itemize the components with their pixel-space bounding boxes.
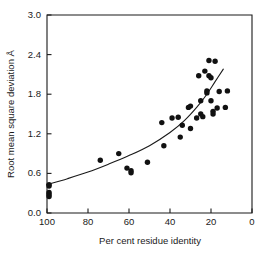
- x-axis-title: Per cent residue identity: [99, 236, 201, 246]
- x-axis-tick-marks: [47, 209, 252, 214]
- data-point: [116, 151, 121, 156]
- x-tick-label: 80: [83, 217, 94, 227]
- data-point: [178, 134, 183, 139]
- y-axis-title: Root mean square deviation Å: [6, 50, 16, 178]
- data-point: [200, 114, 205, 119]
- axis-frame-lines: [47, 15, 252, 213]
- x-tick-label: 40: [165, 217, 176, 227]
- data-point: [206, 58, 211, 63]
- fitted-trend-curve: [47, 69, 223, 184]
- data-point: [208, 98, 213, 103]
- data-point: [202, 68, 207, 73]
- data-point: [98, 158, 103, 163]
- data-point: [188, 126, 193, 131]
- data-point: [188, 103, 193, 108]
- data-point: [46, 183, 51, 188]
- data-point: [128, 170, 133, 175]
- data-point: [204, 90, 209, 95]
- data-point: [225, 88, 230, 93]
- axes-frame: [47, 15, 252, 213]
- data-point: [161, 143, 166, 148]
- data-point: [212, 59, 217, 64]
- data-point: [176, 115, 181, 120]
- data-point: [194, 115, 199, 120]
- data-point: [196, 73, 201, 78]
- figure-container: 100806040200 0.00.61.21.82.43.0 Per cent…: [0, 0, 269, 253]
- data-point: [223, 105, 228, 110]
- data-point: [210, 111, 215, 116]
- data-point: [169, 115, 174, 120]
- data-point: [198, 98, 203, 103]
- data-point: [217, 89, 222, 94]
- data-point: [214, 105, 219, 110]
- data-point: [159, 120, 164, 125]
- x-tick-label: 60: [124, 217, 135, 227]
- y-tick-label: 0.0: [0, 208, 41, 218]
- scatter-data-points: [46, 58, 230, 199]
- y-tick-label: 3.0: [0, 10, 41, 20]
- data-point: [46, 194, 51, 199]
- x-tick-label: 20: [206, 217, 217, 227]
- x-tick-label: 0: [249, 217, 254, 227]
- data-point: [145, 159, 150, 164]
- data-point: [180, 123, 185, 128]
- data-point: [208, 75, 213, 80]
- x-tick-label: 100: [39, 217, 55, 227]
